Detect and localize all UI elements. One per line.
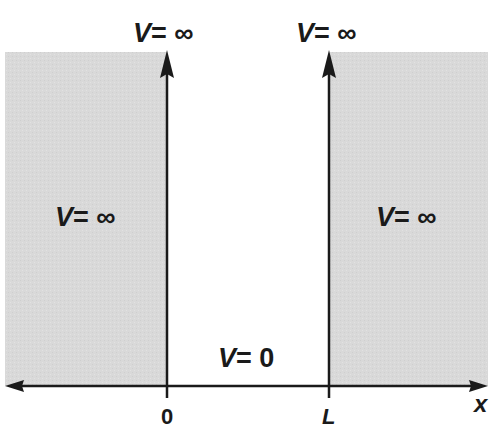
tick-label-L: L [322, 406, 335, 428]
left-barrier-label: V= ∞ [55, 204, 116, 231]
wall-at-L-top-label: V= ∞ [296, 20, 357, 47]
well-label: V= 0 [218, 345, 274, 372]
potential-value: = ∞ [151, 18, 194, 48]
tick-label-0: 0 [161, 406, 173, 428]
x-axis-label: x [474, 392, 487, 416]
potential-value: = ∞ [314, 18, 357, 48]
wall-at-0-top-label: V= ∞ [133, 20, 194, 47]
right-barrier-label: V= ∞ [376, 204, 437, 231]
potential-symbol: V [55, 202, 73, 232]
potential-value: = 0 [236, 343, 274, 373]
potential-symbol: V [376, 202, 394, 232]
potential-symbol: V [133, 18, 151, 48]
potential-value: = ∞ [394, 202, 437, 232]
potential-symbol: V [296, 18, 314, 48]
infinite-square-well-diagram: V= ∞ V= ∞ V= ∞ V= 0 V= ∞ 0 L x [0, 0, 493, 436]
potential-symbol: V [218, 343, 236, 373]
potential-value: = ∞ [73, 202, 116, 232]
